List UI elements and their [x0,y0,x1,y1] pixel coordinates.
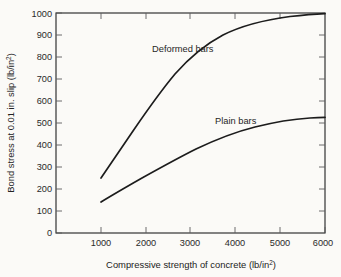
y-axis-title-tail: ) [5,53,16,56]
y-tick-label-400: 400 [37,140,52,150]
x-tick-label-4000: 4000 [225,238,245,248]
y-axis-title-main: Bond stress at 0.01 in. slip (lb/in [5,60,16,193]
y-tick-label-600: 600 [37,96,52,106]
x-tick-label-5000: 5000 [270,238,290,248]
y-tick-label-1000: 1000 [32,9,52,19]
x-tick-label-2000: 2000 [136,238,156,248]
y-tick-label-100: 100 [37,206,52,216]
x-axis-title: Compressive strength of concrete (lb/in2… [106,259,276,270]
y-tick-label-800: 800 [37,52,52,62]
y-tick-label-500: 500 [37,118,52,128]
x-tick-label-1000: 1000 [91,238,111,248]
y-tick-label-200: 200 [37,184,52,194]
y-axis-title: Bond stress at 0.01 in. slip (lb/in2) [5,53,16,193]
y-tick-label-900: 900 [37,30,52,40]
bond-stress-chart-figure: 0 100 200 300 400 500 600 700 800 900 10… [0,0,341,277]
x-axis-title-main: Compressive strength of concrete (lb/in [106,259,269,270]
y-tick-label-0: 0 [47,228,52,238]
y-tick-label-300: 300 [37,162,52,172]
x-tick-label-3000: 3000 [180,238,200,248]
chart-svg: 0 100 200 300 400 500 600 700 800 900 10… [0,0,341,277]
x-tick-label-6000: 6000 [313,238,333,248]
x-axis-title-tail: ) [273,259,276,270]
y-tick-label-700: 700 [37,74,52,84]
deformed-bars-label: Deformed bars [152,44,214,54]
plain-bars-label: Plain bars [215,116,257,126]
